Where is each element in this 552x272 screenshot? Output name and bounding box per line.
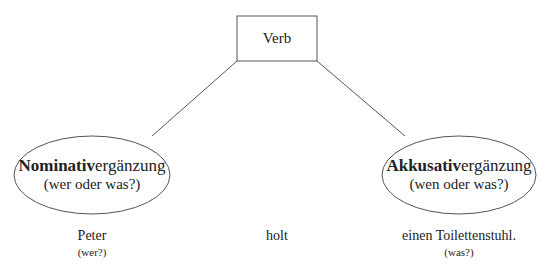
verb-label: Verb (237, 16, 317, 61)
akkusativ-title: Akkusativergänzung (382, 156, 536, 176)
connector-right (317, 61, 405, 136)
sentence-hint-subject: (wer?) (52, 246, 132, 258)
akkusativ-node: Akkusativergänzung (wen oder was?) (382, 156, 536, 193)
sentence-hint-object: (was?) (394, 246, 524, 258)
connector-left (152, 61, 237, 136)
sentence-word-subject: Peter (52, 228, 132, 244)
nominativ-node: Nominativergänzung (wer oder was?) (14, 156, 170, 193)
akkusativ-question: (wen oder was?) (382, 176, 536, 193)
akkusativ-rest: ergänzung (461, 156, 532, 175)
nominativ-title: Nominativergänzung (14, 156, 170, 176)
nominativ-rest: ergänzung (95, 156, 166, 175)
nominativ-question: (wer oder was?) (14, 176, 170, 193)
sentence-word-object: einen Toilettenstuhl. (394, 228, 524, 244)
akkusativ-bold: Akkusativ (386, 156, 461, 175)
nominativ-bold: Nominativ (19, 156, 96, 175)
sentence-word-verb: holt (237, 228, 317, 244)
